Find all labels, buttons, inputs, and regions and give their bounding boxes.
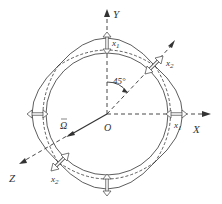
- displacement-arrow-top: [103, 32, 111, 54]
- vibration-mode-diagram: Y X Z Ω O 45°: [0, 0, 222, 204]
- x1-label-right: x1: [173, 120, 182, 132]
- displacement-arrow-bottom: [103, 174, 111, 196]
- y-axis-label: Y: [113, 8, 121, 20]
- omega-label: Ω: [60, 120, 67, 131]
- displacement-arrow-right: [166, 110, 187, 118]
- angle-indicator: 45°: [107, 76, 128, 93]
- x2-label-upper-right: x2: [165, 58, 174, 70]
- displacement-arrow-lower-left: [51, 153, 69, 171]
- z-axis-label: Z: [9, 172, 16, 184]
- y-axis: Y: [104, 8, 121, 114]
- x2-label-lower-left: x2: [50, 174, 59, 186]
- origin-label: O: [104, 122, 111, 133]
- angle-label: 45°: [113, 76, 126, 86]
- angular-velocity-vector: Ω: [60, 114, 107, 137]
- x-axis-label: X: [192, 123, 201, 135]
- displacement-arrow-left: [27, 110, 48, 118]
- x-axis: X: [107, 111, 211, 135]
